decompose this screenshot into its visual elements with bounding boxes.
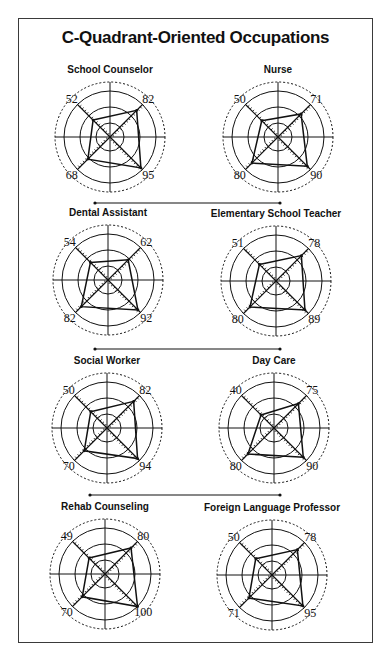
axis-tick xyxy=(298,304,300,306)
data-point xyxy=(127,258,130,261)
axis-tick xyxy=(248,105,250,107)
chart-title: Rehab Counseling xyxy=(61,501,149,512)
axis-tick xyxy=(112,423,114,425)
data-point xyxy=(296,548,299,551)
axis-tick xyxy=(255,112,257,114)
axis-tick xyxy=(248,401,250,403)
value-label: 82 xyxy=(142,92,154,106)
data-point xyxy=(132,400,135,403)
axis-tick xyxy=(258,154,260,156)
axis-tick xyxy=(244,310,246,312)
axis-tick xyxy=(135,544,137,546)
axis-tick xyxy=(291,297,293,299)
axis-tick xyxy=(243,601,245,603)
axis-tick xyxy=(277,283,279,285)
chart-title: School Counselor xyxy=(67,64,153,75)
value-label: 90 xyxy=(310,168,322,182)
axis-tick xyxy=(134,254,136,256)
data-point xyxy=(81,595,84,598)
axis-tick xyxy=(82,108,84,110)
axis-tick xyxy=(300,402,302,404)
axis-tick xyxy=(300,307,302,309)
axis-tick xyxy=(122,266,124,268)
data-point xyxy=(251,162,254,165)
axis-tick xyxy=(129,451,131,453)
axis-tick xyxy=(124,555,126,557)
axis-tick xyxy=(286,561,288,563)
axis-tick xyxy=(84,110,86,112)
axis-tick xyxy=(284,589,286,591)
axis-tick xyxy=(288,559,290,561)
axis-tick xyxy=(300,160,302,162)
axis-tick xyxy=(78,248,80,250)
axis-tick xyxy=(110,569,112,571)
axis-tick xyxy=(120,268,122,270)
axis-tick xyxy=(99,577,101,579)
row-separator-end xyxy=(278,201,281,204)
axis-tick xyxy=(279,435,281,437)
axis-tick xyxy=(257,587,259,589)
axis-tick xyxy=(80,251,82,253)
axis-tick xyxy=(115,273,117,275)
axis-tick xyxy=(289,594,291,596)
axis-tick xyxy=(290,267,292,269)
axis-tick xyxy=(137,398,139,400)
axis-tick xyxy=(89,443,91,445)
data-point xyxy=(92,119,95,122)
axis-tick xyxy=(106,276,108,278)
axis-tick xyxy=(100,568,102,570)
axis-tick xyxy=(101,271,103,273)
axis-tick xyxy=(103,274,105,276)
axis-tick xyxy=(76,600,78,602)
chart-title: Nurse xyxy=(264,64,293,75)
axis-tick xyxy=(120,590,122,592)
axis-tick xyxy=(280,135,282,137)
axis-tick xyxy=(110,433,112,435)
axis-tick xyxy=(93,413,95,415)
axis-tick xyxy=(101,575,103,577)
axis-tick xyxy=(272,140,274,142)
axis-tick xyxy=(256,298,258,300)
axis-tick xyxy=(251,403,253,405)
axis-tick xyxy=(299,258,301,260)
axis-tick xyxy=(95,290,97,292)
axis-tick xyxy=(80,105,82,107)
axis-tick xyxy=(275,430,277,432)
axis-tick xyxy=(258,560,260,562)
axis-tick xyxy=(288,269,290,271)
data-point xyxy=(260,119,263,122)
value-label: 80 xyxy=(137,529,149,543)
axis-tick xyxy=(267,286,269,288)
axis-tick xyxy=(92,440,94,442)
axis-tick xyxy=(93,292,95,294)
axis-tick xyxy=(75,457,77,459)
axis-tick xyxy=(254,590,256,592)
axis-tick xyxy=(112,567,114,569)
axis-tick xyxy=(270,284,272,286)
axis-tick xyxy=(281,288,283,290)
axis-tick xyxy=(273,577,275,579)
axis-tick xyxy=(287,591,289,593)
axis-tick xyxy=(113,142,115,144)
axis-tick xyxy=(288,414,290,416)
data-point xyxy=(83,449,86,452)
row-separator-end xyxy=(93,201,96,204)
axis-tick xyxy=(103,429,105,431)
axis-tick xyxy=(134,163,136,165)
axis-tick xyxy=(108,430,110,432)
axis-tick xyxy=(98,565,100,567)
axis-tick xyxy=(131,602,133,604)
value-label: 62 xyxy=(140,235,152,249)
axis-tick xyxy=(91,559,93,561)
value-label: 51 xyxy=(232,236,244,250)
axis-tick xyxy=(80,452,82,454)
axis-tick xyxy=(124,123,126,125)
value-label: 52 xyxy=(66,92,78,106)
axis-tick xyxy=(288,295,290,297)
axis-tick xyxy=(122,125,124,127)
value-label: 95 xyxy=(142,168,154,182)
axis-tick xyxy=(127,597,129,599)
value-label: 70 xyxy=(61,605,73,619)
axis-tick xyxy=(84,403,86,405)
axis-tick xyxy=(88,297,90,299)
